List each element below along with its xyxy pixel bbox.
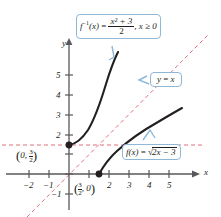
y-axis-label: y xyxy=(62,38,66,48)
x-tick-label-2: 2 xyxy=(107,180,112,190)
identity-callout-rhs: x xyxy=(171,74,175,84)
x-axis-arrowhead xyxy=(192,171,200,178)
point-label2-close-paren: ) xyxy=(91,181,95,196)
inverse-callout-domain: , x ≥ 0 xyxy=(134,21,156,31)
inverse-function-callout: f−1(x) = x² + 32, x ≥ 0 xyxy=(76,14,161,39)
point-marker-x-intercept xyxy=(96,171,103,178)
leader-line-inverse-callout xyxy=(109,46,114,60)
leader-line-function-callout xyxy=(143,130,155,140)
identity-callout-equals: = xyxy=(163,74,168,84)
inverse-callout-denominator: 2 xyxy=(108,26,134,36)
y-axis-arrowhead xyxy=(66,38,73,45)
x-tick-label-3: 3 xyxy=(127,180,132,190)
inverse-callout-fraction: x² + 32 xyxy=(108,17,134,36)
y-tick-label-4: 4 xyxy=(56,90,61,100)
curve-inverse-function xyxy=(69,52,118,145)
y-tick-label-5: 5 xyxy=(56,70,61,80)
function-callout-argument: (x) xyxy=(129,147,139,157)
inverse-callout-equals: = xyxy=(101,21,106,31)
curve-function xyxy=(99,108,182,174)
point-label-y-intercept: (0, 32) xyxy=(16,148,37,164)
function-callout-radicand: 2x − 3 xyxy=(152,147,177,157)
function-callout: f(x) = √2x − 3 xyxy=(122,144,181,160)
leader-line-identity-callout xyxy=(139,76,149,84)
point-label-x-intercept: (32, 0) xyxy=(74,181,95,197)
graph-figure: y x −2 −1 2 3 4 5 5 4 3 2 −1 (0, 32) (32… xyxy=(0,0,221,217)
inverse-callout-argument: (x) xyxy=(89,21,99,31)
x-axis-label: x xyxy=(204,167,208,177)
x-tick-label--2: −2 xyxy=(23,180,34,190)
y-tick-label-3: 3 xyxy=(56,110,61,120)
identity-callout-lhs: y xyxy=(157,74,161,84)
x-tick-label-5: 5 xyxy=(167,180,172,190)
point-marker-y-intercept xyxy=(66,142,73,149)
function-callout-equals: = xyxy=(141,147,146,157)
identity-line-callout: y = x xyxy=(150,72,182,87)
point-label-close-paren: ) xyxy=(33,148,37,163)
y-tick-label--1: −1 xyxy=(51,189,62,199)
x-tick-label-4: 4 xyxy=(147,180,152,190)
inverse-callout-numerator: x² + 3 xyxy=(108,17,134,26)
y-tick-label-2: 2 xyxy=(56,130,61,140)
